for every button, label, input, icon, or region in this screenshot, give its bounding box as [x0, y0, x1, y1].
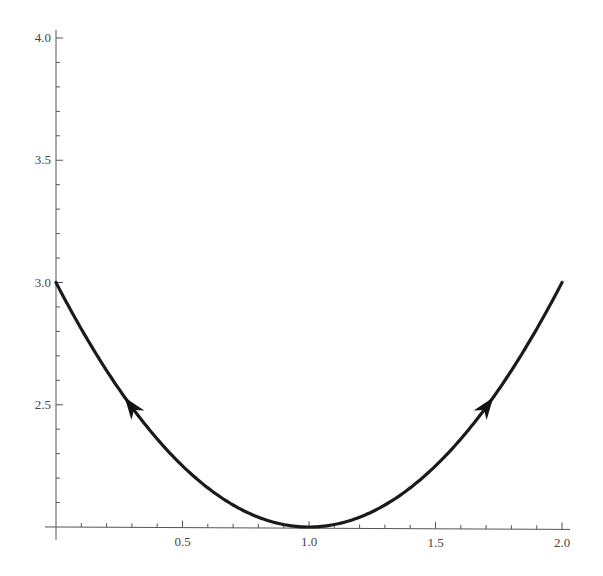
- y-tick-label: 2.5: [35, 397, 51, 412]
- x-tick-label: 2.0: [554, 535, 570, 550]
- x-tick-label: 1.5: [427, 535, 443, 550]
- x-tick-label: 0.5: [174, 534, 190, 549]
- x-axis: 0.51.01.52.0: [45, 521, 570, 551]
- y-tick-label: 3.5: [35, 152, 51, 167]
- left-arrow-icon: [125, 398, 145, 420]
- right-arrow-icon: [474, 398, 494, 420]
- x-tick-label: 1.0: [301, 534, 317, 549]
- direction-arrows: [125, 398, 493, 420]
- parabola-plot: 2.53.03.54.0 0.51.01.52.0: [0, 0, 603, 576]
- y-tick-label: 4.0: [35, 30, 51, 45]
- y-tick-label: 3.0: [35, 275, 51, 290]
